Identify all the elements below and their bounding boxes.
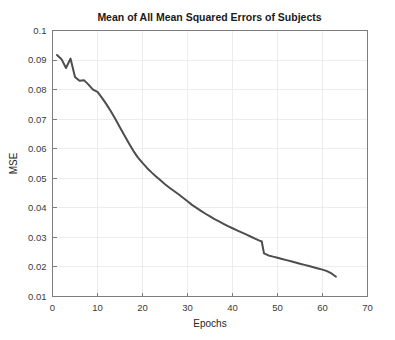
x-tick-label: 70	[362, 302, 373, 313]
y-tick-label: 0.05	[28, 173, 47, 184]
y-tick-label: 0.03	[28, 232, 47, 243]
y-tick-label: 0.07	[28, 114, 47, 125]
y-tick-label: 0.08	[28, 84, 47, 95]
figure-canvas: Mean of All Mean Squared Errors of Subje…	[0, 0, 395, 340]
y-tick-label: 0.06	[28, 143, 47, 154]
x-tick-label: 30	[182, 302, 193, 313]
x-tick-label: 0	[50, 302, 55, 313]
x-tick-label: 60	[317, 302, 328, 313]
y-tick-label: 0.04	[28, 202, 47, 213]
chart-title: Mean of All Mean Squared Errors of Subje…	[97, 11, 321, 23]
y-tick-label: 0.02	[28, 261, 47, 272]
x-tick-label: 40	[227, 302, 238, 313]
y-tick-label: 0.09	[28, 54, 47, 65]
y-tick-label: 0.01	[28, 291, 47, 302]
mse-line-chart: Mean of All Mean Squared Errors of Subje…	[0, 0, 395, 340]
y-tick-label: 0.1	[33, 25, 46, 36]
x-tick-label: 10	[92, 302, 103, 313]
x-tick-label: 20	[137, 302, 148, 313]
chart-background	[0, 0, 395, 340]
y-axis-label: MSE	[8, 152, 19, 174]
x-axis-label: Epochs	[193, 318, 226, 329]
x-tick-label: 50	[272, 302, 283, 313]
